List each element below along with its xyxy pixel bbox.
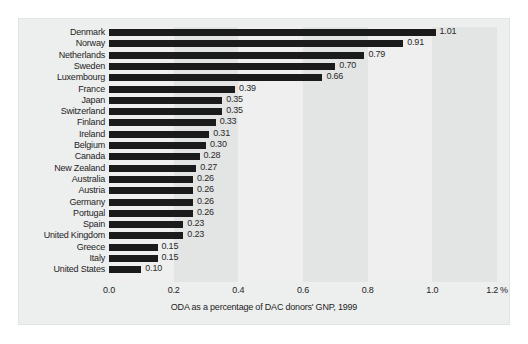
bar	[109, 119, 216, 126]
bar-value-label: 0.33	[220, 116, 237, 126]
category-label: Belgium	[19, 140, 105, 151]
bar-value-label: 0.15	[162, 252, 179, 262]
bar-value-label: 0.79	[368, 49, 385, 59]
axis-caption: ODA as a percentage of DAC donors' GNP, …	[19, 302, 509, 312]
bar-row: 0.23	[109, 219, 497, 230]
category-label: Norway	[19, 38, 105, 49]
bar-row: 0.31	[109, 129, 497, 140]
bar	[109, 176, 193, 183]
plot-area: 1.010.910.790.700.660.390.350.350.330.31…	[109, 27, 497, 282]
category-label: New Zealand	[19, 163, 105, 174]
bar-row: 0.26	[109, 185, 497, 196]
axis-tick-label: 0.0	[103, 285, 115, 295]
bar	[109, 165, 196, 172]
bar	[109, 52, 364, 59]
bar	[109, 86, 235, 93]
category-label: Italy	[19, 253, 105, 264]
bar	[109, 255, 158, 262]
bar-value-label: 0.35	[226, 94, 243, 104]
bar-value-label: 0.26	[197, 207, 214, 217]
bar-value-label: 0.39	[239, 83, 256, 93]
chart-figure: DenmarkNorwayNetherlandsSwedenLuxembourg…	[18, 18, 510, 325]
bar-value-label: 0.26	[197, 196, 214, 206]
axis-unit-symbol: %	[500, 285, 508, 295]
category-label: Switzerland	[19, 106, 105, 117]
bar	[109, 153, 200, 160]
category-label: United Kingdom	[19, 230, 105, 241]
value-axis: 0.00.20.40.60.81.01.2%	[109, 285, 519, 301]
bar-value-label: 0.66	[326, 71, 343, 81]
axis-tick-label: 0.4	[232, 285, 244, 295]
category-label: Australia	[19, 174, 105, 185]
bar-row: 0.35	[109, 106, 497, 117]
bar-row: 0.79	[109, 50, 497, 61]
bar-series: 1.010.910.790.700.660.390.350.350.330.31…	[109, 27, 497, 282]
bar-value-label: 0.70	[339, 60, 356, 70]
bar-value-label: 0.28	[204, 150, 221, 160]
bar-value-label: 0.30	[210, 139, 227, 149]
bar-value-label: 0.91	[407, 37, 424, 47]
bar-row: 0.33	[109, 117, 497, 128]
axis-tick-label: 0.6	[297, 285, 309, 295]
bar	[109, 210, 193, 217]
category-label: Canada	[19, 151, 105, 162]
bar-row: 0.10	[109, 264, 497, 275]
bar-row: 0.66	[109, 72, 497, 83]
category-label: Austria	[19, 185, 105, 196]
bar-value-label: 0.26	[197, 173, 214, 183]
category-axis-labels: DenmarkNorwayNetherlandsSwedenLuxembourg…	[19, 27, 105, 282]
axis-tick-label: 0.8	[362, 285, 374, 295]
bar	[109, 244, 158, 251]
bar-value-label: 0.23	[187, 229, 204, 239]
category-label: Spain	[19, 219, 105, 230]
category-label: Sweden	[19, 61, 105, 72]
bar	[109, 221, 183, 228]
bar-row: 0.70	[109, 61, 497, 72]
bar	[109, 232, 183, 239]
category-label: Germany	[19, 197, 105, 208]
bar-value-label: 0.10	[145, 263, 162, 273]
bar	[109, 40, 403, 47]
axis-tick-label: 1.0	[426, 285, 438, 295]
bar-value-label: 0.26	[197, 184, 214, 194]
bar-row: 0.39	[109, 84, 497, 95]
bar	[109, 74, 322, 81]
bar-row: 0.26	[109, 174, 497, 185]
bar	[109, 266, 141, 273]
category-label: Denmark	[19, 27, 105, 38]
axis-tick-label: 1.2%	[486, 285, 508, 295]
bar	[109, 187, 193, 194]
bar-row: 0.35	[109, 95, 497, 106]
bar-value-label: 1.01	[440, 26, 457, 36]
bar	[109, 29, 436, 36]
category-label: Japan	[19, 95, 105, 106]
category-label: Greece	[19, 242, 105, 253]
category-label: France	[19, 84, 105, 95]
category-label: Luxembourg	[19, 72, 105, 83]
bar	[109, 199, 193, 206]
bar-value-label: 0.15	[162, 241, 179, 251]
category-label: United States	[19, 264, 105, 275]
bar-row: 0.30	[109, 140, 497, 151]
bar-value-label: 0.23	[187, 218, 204, 228]
axis-tick-label: 0.2	[168, 285, 180, 295]
category-label: Finland	[19, 117, 105, 128]
bar-row: 0.91	[109, 38, 497, 49]
bar-row: 0.26	[109, 197, 497, 208]
bar-value-label: 0.35	[226, 105, 243, 115]
category-label: Portugal	[19, 208, 105, 219]
bar	[109, 131, 209, 138]
category-label: Netherlands	[19, 50, 105, 61]
bar-value-label: 0.31	[213, 128, 230, 138]
bar-row: 0.27	[109, 163, 497, 174]
bar-row: 0.15	[109, 253, 497, 264]
bar	[109, 63, 335, 70]
bar	[109, 108, 222, 115]
bar	[109, 97, 222, 104]
bar-row: 0.26	[109, 208, 497, 219]
bar	[109, 142, 206, 149]
bar-row: 0.28	[109, 151, 497, 162]
category-label: Ireland	[19, 129, 105, 140]
bar-row: 1.01	[109, 27, 497, 38]
bar-value-label: 0.27	[200, 162, 217, 172]
